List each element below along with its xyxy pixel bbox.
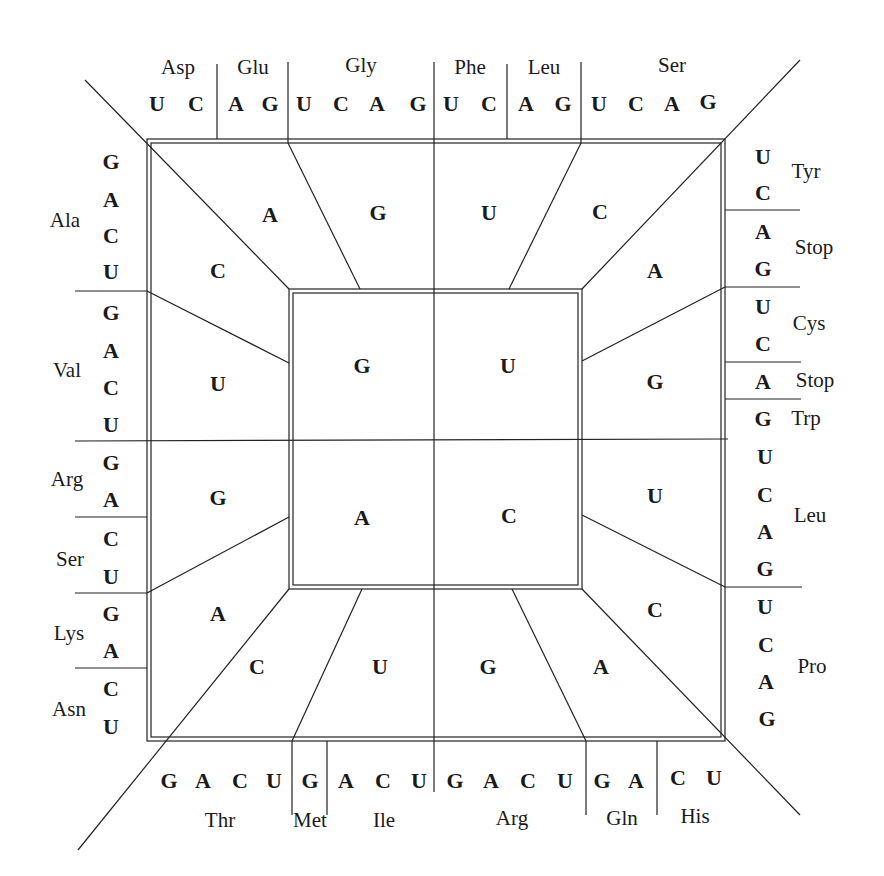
third-base: A bbox=[103, 489, 119, 511]
third-base: A bbox=[758, 671, 774, 693]
second-base: C bbox=[647, 599, 663, 621]
amino-acid-label: Arg bbox=[51, 469, 83, 490]
third-base: G bbox=[102, 603, 119, 625]
second-base: G bbox=[479, 656, 496, 678]
third-base: G bbox=[593, 770, 610, 792]
third-base: U bbox=[706, 767, 722, 789]
third-base: A bbox=[755, 221, 771, 243]
third-base: G bbox=[758, 708, 775, 730]
third-base: U bbox=[755, 296, 771, 318]
second-base: C bbox=[249, 656, 265, 678]
third-base: C bbox=[103, 225, 119, 247]
horizontal-divider bbox=[75, 439, 728, 441]
second-base: U bbox=[210, 373, 226, 395]
third-base: C bbox=[628, 93, 644, 115]
third-base: G bbox=[409, 93, 426, 115]
third-base: A bbox=[369, 93, 385, 115]
amino-acid-label: Ser bbox=[658, 55, 686, 76]
third-base: C bbox=[103, 528, 119, 550]
amino-acid-label: Ile bbox=[373, 810, 395, 831]
amino-acid-label: Phe bbox=[454, 57, 486, 78]
third-base: G bbox=[102, 452, 119, 474]
third-base: A bbox=[483, 770, 499, 792]
amino-acid-label: Trp bbox=[791, 408, 821, 429]
third-base: U bbox=[149, 93, 165, 115]
first-base-tr: U bbox=[500, 355, 516, 377]
third-base: C bbox=[755, 182, 771, 204]
third-base: A bbox=[755, 371, 771, 393]
amino-acid-label: Gln bbox=[606, 808, 638, 829]
third-base: C bbox=[481, 93, 497, 115]
third-base: A bbox=[195, 770, 211, 792]
amino-acid-label: Tyr bbox=[792, 161, 821, 182]
third-base: C bbox=[520, 770, 536, 792]
third-base: G bbox=[754, 258, 771, 280]
third-base: A bbox=[757, 521, 773, 543]
amino-acid-label: Asp bbox=[161, 57, 195, 78]
third-base: A bbox=[103, 640, 119, 662]
amino-acid-label: Thr bbox=[205, 810, 235, 831]
second-base: A bbox=[593, 656, 609, 678]
third-base: G bbox=[754, 408, 771, 430]
first-base-tl: G bbox=[353, 355, 370, 377]
second-base: C bbox=[592, 201, 608, 223]
third-base: G bbox=[102, 302, 119, 324]
amino-acid-label: Stop bbox=[796, 370, 835, 391]
second-base: A bbox=[210, 603, 226, 625]
genetic-code-diagram: G U A C A G U C A G U C C U G A C U G A … bbox=[0, 0, 884, 876]
third-base: C bbox=[758, 634, 774, 656]
third-base: G bbox=[756, 558, 773, 580]
second-base: G bbox=[209, 487, 226, 509]
third-base: C bbox=[188, 93, 204, 115]
third-base: A bbox=[518, 93, 534, 115]
third-base: C bbox=[757, 484, 773, 506]
second-base: U bbox=[647, 485, 663, 507]
third-base: C bbox=[232, 770, 248, 792]
second-base: U bbox=[481, 202, 497, 224]
third-base: U bbox=[757, 596, 773, 618]
amino-acid-label: Pro bbox=[797, 656, 826, 677]
amino-acid-label: His bbox=[680, 806, 709, 827]
third-base: G bbox=[261, 93, 278, 115]
third-base: A bbox=[103, 340, 119, 362]
amino-acid-label: Gly bbox=[345, 55, 377, 76]
third-base: A bbox=[664, 93, 680, 115]
amino-acid-label: Arg bbox=[496, 808, 528, 829]
third-base: C bbox=[670, 767, 686, 789]
third-base: U bbox=[266, 770, 282, 792]
third-base: U bbox=[296, 93, 312, 115]
third-base: A bbox=[628, 770, 644, 792]
third-base: A bbox=[338, 770, 354, 792]
third-base: G bbox=[446, 770, 463, 792]
third-base: C bbox=[103, 678, 119, 700]
third-base: A bbox=[228, 93, 244, 115]
third-base: G bbox=[160, 770, 177, 792]
amino-acid-label: Leu bbox=[794, 505, 827, 526]
amino-acid-label: Leu bbox=[528, 57, 561, 78]
third-base: G bbox=[301, 770, 318, 792]
third-base: U bbox=[103, 414, 119, 436]
third-base: U bbox=[103, 716, 119, 738]
second-base: G bbox=[646, 371, 663, 393]
amino-acid-label: Glu bbox=[237, 57, 269, 78]
second-base: G bbox=[369, 202, 386, 224]
amino-acid-label: Asn bbox=[52, 699, 86, 720]
third-base: C bbox=[333, 93, 349, 115]
first-base-bl: A bbox=[354, 507, 370, 529]
third-base: U bbox=[103, 261, 119, 283]
amino-acid-label: Ser bbox=[56, 549, 84, 570]
amino-acid-label: Stop bbox=[795, 237, 834, 258]
amino-acid-label: Lys bbox=[54, 623, 84, 644]
amino-acid-label: Ala bbox=[50, 210, 80, 231]
second-base: A bbox=[262, 204, 278, 226]
third-base: C bbox=[755, 333, 771, 355]
third-base: G bbox=[554, 93, 571, 115]
third-base: U bbox=[103, 566, 119, 588]
third-base: C bbox=[103, 377, 119, 399]
third-base: G bbox=[699, 91, 716, 113]
third-base: U bbox=[557, 770, 573, 792]
third-base: U bbox=[755, 146, 771, 168]
diagram-lines bbox=[0, 0, 884, 876]
second-base: A bbox=[647, 260, 663, 282]
third-base: G bbox=[102, 151, 119, 173]
